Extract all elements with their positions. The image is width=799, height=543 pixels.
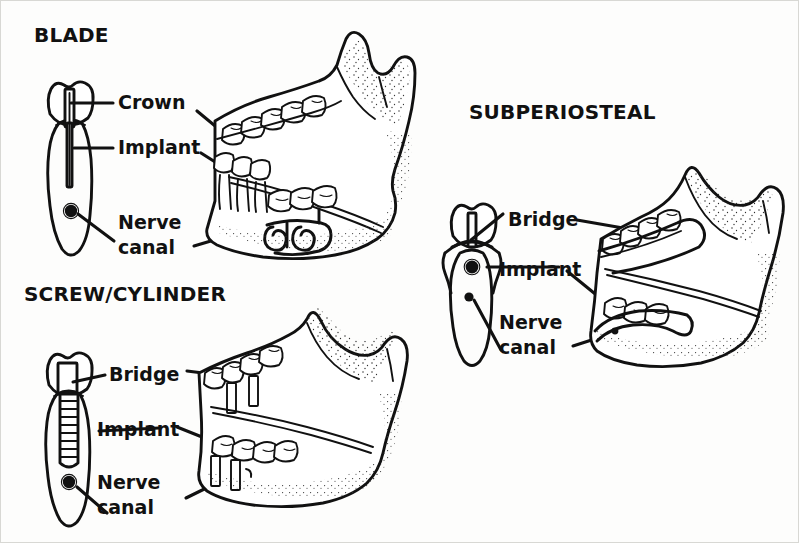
callout-blade-crown: Crown (118, 93, 185, 112)
callout-blade-nerve-line1: Nerve (118, 210, 181, 235)
panel-title-blade: BLADE (34, 23, 109, 47)
screw-cross-section (46, 353, 92, 526)
panel-title-subperiosteal: SUBPERIOSTEAL (469, 100, 656, 124)
screw-implants-lower (211, 456, 240, 490)
sub-upper-teeth (602, 210, 681, 254)
callout-screw-implant: Implant (97, 420, 179, 439)
screw-mandible (199, 307, 408, 507)
screw-implants-upper (227, 376, 258, 413)
blade-mandible (207, 32, 415, 258)
subperiosteal-cross-section (443, 204, 501, 366)
callout-screw-bridge: Bridge (109, 365, 179, 384)
callout-sub-nerve-canal: Nerve canal (499, 310, 562, 361)
callout-screw-nerve-line1: Nerve (97, 470, 160, 495)
panel-title-screw-cylinder: SCREW/CYLINDER (24, 282, 226, 306)
subperiosteal-mandible (591, 167, 784, 367)
callout-sub-implant: Implant (499, 260, 581, 279)
blade-leader-lines (71, 103, 301, 246)
callout-blade-nerve-canal: Nerve canal (118, 210, 181, 261)
lower-teeth-row (214, 153, 270, 212)
implant-types-figure: BLADE Crown Implant Nerve canal SCREW/CY… (0, 0, 799, 543)
callout-blade-nerve-line2: canal (118, 235, 181, 260)
sub-lower-teeth (604, 298, 669, 324)
callout-blade-implant: Implant (118, 138, 200, 157)
subperiosteal-framework (443, 241, 501, 293)
illustration-artwork (1, 1, 799, 543)
blade-cross-section (48, 82, 93, 255)
callout-sub-nerve-line2: canal (499, 335, 562, 360)
blade-implant-in-jaw (265, 209, 331, 255)
upper-teeth-row (222, 96, 326, 144)
callout-sub-bridge: Bridge (508, 210, 578, 229)
screw-upper-teeth (204, 346, 283, 388)
callout-sub-nerve-line1: Nerve (499, 310, 562, 335)
screw-lower-teeth (212, 436, 298, 462)
screw-implant-body (60, 394, 78, 467)
callout-screw-nerve-canal: Nerve canal (97, 470, 160, 521)
lower-molars-posterior (268, 186, 337, 211)
callout-screw-nerve-line2: canal (97, 495, 160, 520)
